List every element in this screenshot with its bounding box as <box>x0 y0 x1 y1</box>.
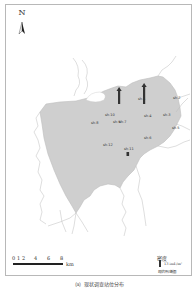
scale-bar: 0 1 2 4 6 8 km <box>12 255 82 269</box>
site-label: sh-4 <box>144 114 152 118</box>
site-label: sh-8 <box>91 121 99 125</box>
site-label: sh-10 <box>105 113 115 117</box>
north-label: N <box>15 9 29 17</box>
river-line <box>136 166 146 226</box>
site-label: sh-5 <box>172 126 180 130</box>
scale-bar-segments <box>13 263 63 265</box>
density-bar-sh-11 <box>127 152 130 156</box>
scale-tick: 0 <box>12 255 15 261</box>
river-line <box>76 213 88 232</box>
site-label: sh-9 <box>113 120 121 124</box>
scale-tick: 6 <box>47 255 50 261</box>
river-line <box>158 56 176 76</box>
scale-tick: 4 <box>34 255 37 261</box>
river-line <box>48 213 76 226</box>
scale-tick: 2 <box>22 255 25 261</box>
legend-bar-icon <box>159 260 161 267</box>
study-area-map <box>0 0 196 290</box>
legend-value: 13 ind./m² <box>164 262 182 266</box>
site-label: sh-12 <box>103 143 113 147</box>
figure-caption: （a）现状调查站位分布 <box>0 280 196 287</box>
river-line <box>73 58 80 96</box>
site-label: sh-1 <box>138 97 146 101</box>
site-label: sh-3 <box>163 113 171 117</box>
river-line <box>120 188 126 236</box>
density-bar-sh-1 <box>118 90 120 104</box>
legend-note: 现状评价断面 <box>158 269 176 274</box>
scale-unit: km <box>66 261 74 267</box>
river-line <box>82 60 88 94</box>
site-label: sh-6 <box>144 136 152 140</box>
density-bar-sh-2 <box>143 86 145 104</box>
scale-tick: 1 <box>17 255 20 261</box>
scale-tick: 8 <box>60 255 63 261</box>
site-label: sh-11 <box>124 147 134 151</box>
legend: 密度 13 ind./m² 现状评价断面 <box>153 254 189 276</box>
site-label: sh-2 <box>173 96 181 100</box>
north-arrow: N <box>15 9 29 35</box>
